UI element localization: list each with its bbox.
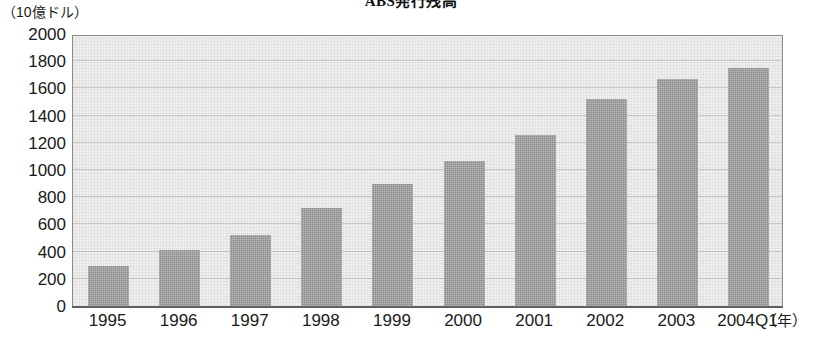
x-axis-tick-label: 1998 — [285, 311, 356, 330]
bar — [230, 235, 271, 306]
x-axis-tick-label: 1997 — [214, 311, 285, 330]
x-axis-baseline — [72, 306, 783, 308]
bar — [372, 184, 413, 306]
bar — [657, 79, 698, 306]
x-axis-tick-label: 1995 — [72, 311, 143, 330]
y-axis-tick-label: 1800 — [0, 53, 66, 70]
y-axis-tick-label: 800 — [0, 189, 66, 206]
x-axis-tick-label: 1996 — [143, 311, 214, 330]
x-axis-tick-label: 2000 — [428, 311, 499, 330]
x-axis-tick-label: 2001 — [499, 311, 570, 330]
bar — [88, 266, 129, 306]
bar — [586, 99, 627, 306]
y-axis-tick-label: 600 — [0, 216, 66, 233]
x-axis-tick-label: 1999 — [356, 311, 427, 330]
x-axis-unit-label: （年） — [762, 311, 807, 330]
bar — [301, 208, 342, 306]
bar-chart-figure: ABS発行残高 （10億ドル） 020040060080010001200140… — [0, 0, 822, 342]
bar — [159, 250, 200, 306]
chart-title: ABS発行残高 — [0, 0, 822, 10]
y-axis-tick-label: 200 — [0, 271, 66, 288]
y-axis-tick-label: 1200 — [0, 135, 66, 152]
y-axis-unit-label: （10億ドル） — [2, 1, 88, 21]
bar — [728, 68, 769, 306]
y-axis-tick-label: 400 — [0, 244, 66, 261]
y-axis-tick-labels: 0200400600800100012001400160018002000 — [0, 35, 66, 307]
plot-area — [72, 35, 783, 307]
bar — [515, 135, 556, 306]
gridline — [73, 60, 782, 61]
bar — [444, 161, 485, 306]
y-axis-tick-label: 0 — [0, 298, 66, 315]
y-axis-tick-label: 1600 — [0, 80, 66, 97]
y-axis-tick-label: 1000 — [0, 162, 66, 179]
x-axis-tick-label: 2002 — [570, 311, 641, 330]
y-axis-tick-label: 1400 — [0, 108, 66, 125]
x-axis-tick-label: 2003 — [641, 311, 712, 330]
y-axis-tick-label: 2000 — [0, 26, 66, 43]
